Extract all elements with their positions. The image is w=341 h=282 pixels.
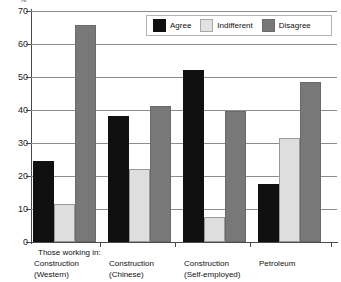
y-axis-tick-label: 60 [4, 40, 28, 49]
bar-disagree [300, 82, 321, 242]
x-axis-category-label: Construction (Chinese) [109, 259, 154, 280]
x-axis-tick [250, 242, 251, 247]
y-axis-unit-label: % [20, 0, 26, 3]
x-axis-category-label: Construction (Western) [34, 259, 79, 280]
bar-agree [108, 116, 129, 242]
y-axis-tick-label: 70 [4, 7, 28, 16]
x-axis-category-label: Construction (Self-employed) [184, 259, 240, 280]
bar-disagree [150, 106, 171, 242]
y-axis-tick-label: 40 [4, 106, 28, 115]
group-note: Those working in: [38, 248, 101, 258]
bar-group [108, 11, 180, 242]
bar-indifferent [54, 204, 75, 242]
bar-group [258, 11, 330, 242]
legend-swatch-icon [262, 19, 275, 32]
bar-chart: % 010203040506070 AgreeIndifferentDisagr… [0, 0, 341, 282]
bar-group [33, 11, 105, 242]
legend-swatch-icon [153, 19, 166, 32]
y-axis-tick-label: 20 [4, 172, 28, 181]
x-axis-line [31, 242, 338, 243]
bar-agree [33, 161, 54, 242]
y-axis-tick-label: 10 [4, 205, 28, 214]
bar-disagree [225, 111, 246, 242]
y-axis-tick-label: 50 [4, 73, 28, 82]
x-axis-tick [100, 242, 101, 247]
bar-disagree [75, 25, 96, 242]
legend-item-indifferent[interactable]: Indifferent [200, 19, 252, 32]
legend-label: Disagree [279, 22, 311, 30]
plot-area [31, 11, 337, 242]
legend-label: Indifferent [217, 22, 252, 30]
legend-swatch-icon [200, 19, 213, 32]
bar-indifferent [279, 138, 300, 242]
y-axis-tick-label: 30 [4, 139, 28, 148]
x-axis-category-label: Petroleum [259, 259, 295, 270]
bar-indifferent [129, 169, 150, 242]
bar-agree [258, 184, 279, 242]
legend-item-agree[interactable]: Agree [153, 19, 191, 32]
bar-agree [183, 70, 204, 242]
legend-label: Agree [170, 22, 191, 30]
x-axis-tick [331, 242, 332, 247]
x-axis-tick [175, 242, 176, 247]
bar-indifferent [204, 217, 225, 242]
y-axis-tick-label: 0 [4, 238, 28, 247]
legend-item-disagree[interactable]: Disagree [262, 19, 311, 32]
legend: AgreeIndifferentDisagree [146, 15, 332, 36]
bar-group [183, 11, 255, 242]
